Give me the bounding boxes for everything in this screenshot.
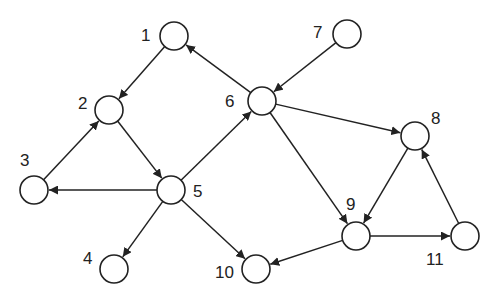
edge-6-to-8 (276, 104, 401, 133)
edge-5-to-4 (123, 201, 163, 256)
node-6 (248, 87, 276, 115)
node-8 (401, 122, 429, 150)
node-4 (100, 255, 128, 283)
node-label-5: 5 (193, 182, 202, 201)
node-label-7: 7 (313, 23, 322, 42)
edge-2-to-5 (118, 121, 162, 178)
edge-6-to-1 (186, 45, 251, 93)
node-3 (20, 176, 48, 204)
node-label-9: 9 (346, 195, 355, 214)
node-9 (342, 222, 370, 250)
node-label-11: 11 (426, 250, 444, 269)
node-label-8: 8 (431, 109, 440, 128)
node-5 (157, 176, 185, 204)
node-label-6: 6 (225, 92, 234, 111)
node-1 (160, 22, 188, 50)
edges (44, 43, 459, 265)
nodes (20, 20, 479, 283)
edge-5-to-10 (181, 200, 245, 259)
node-2 (95, 96, 123, 124)
edge-9-to-10 (270, 240, 342, 264)
node-labels: 1 2 3 4 5 6 7 8 9 10 11 (20, 23, 444, 282)
edge-7-to-6 (274, 43, 336, 92)
edge-8-to-9 (364, 148, 408, 223)
directed-graph: 1 2 3 4 5 6 7 8 9 10 11 (0, 0, 494, 303)
edge-6-to-9 (270, 112, 347, 223)
node-7 (333, 20, 361, 48)
node-label-4: 4 (83, 249, 92, 268)
node-11 (451, 222, 479, 250)
edge-5-to-6 (181, 111, 251, 180)
node-10 (242, 255, 270, 283)
node-label-1: 1 (141, 26, 150, 45)
edge-1-to-2 (119, 47, 165, 99)
edge-3-to-2 (44, 121, 99, 180)
edge-11-to-8 (422, 149, 459, 223)
node-label-3: 3 (20, 151, 29, 170)
node-label-2: 2 (78, 94, 87, 113)
node-label-10: 10 (215, 263, 234, 282)
